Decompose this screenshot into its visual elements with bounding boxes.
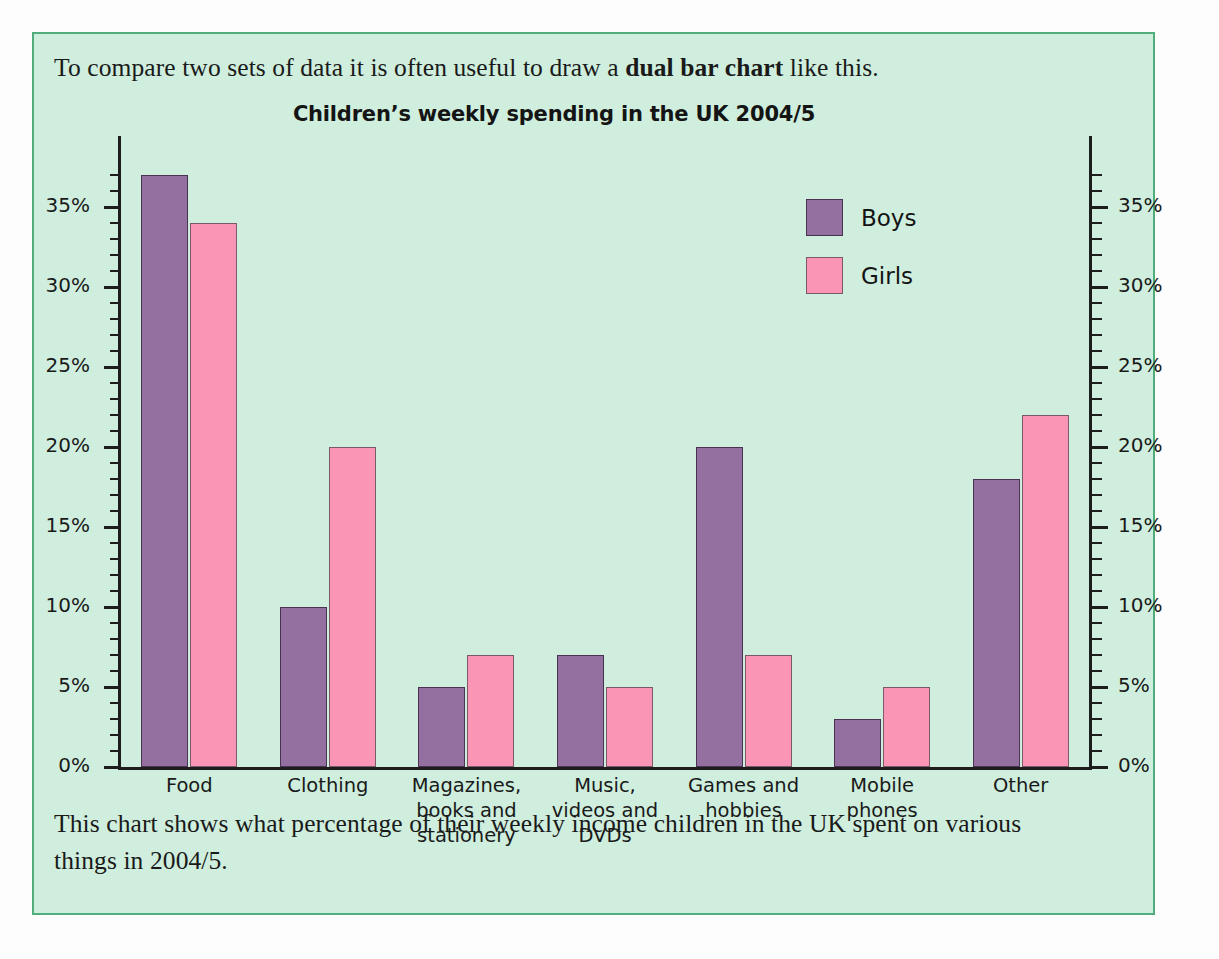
bar-girls-3: [606, 687, 653, 767]
minor-tick-left: [110, 270, 120, 272]
y-tick-label-left-35pct: 35%: [46, 193, 90, 217]
minor-tick-left: [110, 174, 120, 176]
minor-tick-left: [110, 398, 120, 400]
minor-tick-left: [110, 382, 120, 384]
minor-tick-right: [1092, 622, 1102, 624]
minor-tick-left: [110, 542, 120, 544]
y-tick-label-right-5pct: 5%: [1118, 673, 1150, 697]
bar-boys-2: [418, 687, 465, 767]
major-tick-right: [1092, 446, 1108, 449]
minor-tick-right: [1092, 638, 1102, 640]
minor-tick-left: [110, 238, 120, 240]
category-label-6: Other: [943, 774, 1098, 799]
minor-tick-right: [1092, 430, 1102, 432]
minor-tick-right: [1092, 190, 1102, 192]
minor-tick-left: [110, 478, 120, 480]
legend-item-girls: Girls: [806, 257, 1006, 294]
bar-girls-0: [190, 223, 237, 767]
y-tick-label-right-30pct: 30%: [1118, 273, 1162, 297]
intro-text-bold: dual bar chart: [625, 53, 783, 82]
major-tick-right: [1092, 606, 1108, 609]
minor-tick-right: [1092, 254, 1102, 256]
category-label-line: Games and: [666, 774, 821, 799]
minor-tick-right: [1092, 334, 1102, 336]
minor-tick-right: [1092, 414, 1102, 416]
major-tick-right: [1092, 286, 1108, 289]
bar-boys-0: [141, 175, 188, 767]
minor-tick-right: [1092, 238, 1102, 240]
minor-tick-right: [1092, 350, 1102, 352]
minor-tick-left: [110, 702, 120, 704]
intro-paragraph: To compare two sets of data it is often …: [54, 50, 1134, 87]
minor-tick-left: [110, 654, 120, 656]
bar-boys-5: [834, 719, 881, 767]
minor-tick-right: [1092, 718, 1102, 720]
category-label-line: Magazines,: [389, 774, 544, 799]
minor-tick-right: [1092, 174, 1102, 176]
major-tick-left: [104, 446, 120, 449]
minor-tick-right: [1092, 670, 1102, 672]
y-tick-label-right-35pct: 35%: [1118, 193, 1162, 217]
bar-girls-5: [883, 687, 930, 767]
legend-swatch-girls: [806, 257, 843, 294]
minor-tick-right: [1092, 398, 1102, 400]
legend-label-boys: Boys: [861, 205, 916, 231]
content-panel: To compare two sets of data it is often …: [32, 32, 1155, 915]
chart-legend: BoysGirls: [806, 199, 1006, 315]
legend-label-girls: Girls: [861, 263, 913, 289]
minor-tick-left: [110, 622, 120, 624]
category-label-1: Clothing: [251, 774, 406, 799]
major-tick-left: [104, 206, 120, 209]
major-tick-left: [104, 606, 120, 609]
y-tick-label-left-20pct: 20%: [46, 433, 90, 457]
minor-tick-right: [1092, 702, 1102, 704]
bar-boys-4: [696, 447, 743, 767]
bar-boys-1: [280, 607, 327, 767]
legend-item-boys: Boys: [806, 199, 1006, 236]
minor-tick-left: [110, 510, 120, 512]
minor-tick-left: [110, 558, 120, 560]
y-tick-label-right-20pct: 20%: [1118, 433, 1162, 457]
y-tick-label-right-25pct: 25%: [1118, 353, 1162, 377]
category-label-line: Mobile: [805, 774, 960, 799]
major-tick-right: [1092, 206, 1108, 209]
legend-swatch-boys: [806, 199, 843, 236]
intro-text-suffix: like this.: [783, 53, 878, 82]
minor-tick-right: [1092, 318, 1102, 320]
minor-tick-right: [1092, 494, 1102, 496]
page-root: To compare two sets of data it is often …: [0, 0, 1219, 959]
bar-girls-4: [745, 655, 792, 767]
minor-tick-left: [110, 590, 120, 592]
minor-tick-left: [110, 734, 120, 736]
bar-boys-6: [973, 479, 1020, 767]
minor-tick-right: [1092, 510, 1102, 512]
y-tick-label-right-10pct: 10%: [1118, 593, 1162, 617]
minor-tick-left: [110, 222, 120, 224]
major-tick-left: [104, 526, 120, 529]
outro-paragraph: This chart shows what percentage of thei…: [54, 806, 1074, 880]
bar-girls-2: [467, 655, 514, 767]
minor-tick-right: [1092, 382, 1102, 384]
y-tick-label-right-0pct: 0%: [1118, 753, 1150, 777]
minor-tick-left: [110, 318, 120, 320]
dual-bar-chart: Children’s weekly spending in the UK 200…: [34, 96, 1153, 796]
minor-tick-left: [110, 302, 120, 304]
minor-tick-left: [110, 254, 120, 256]
y-tick-label-left-0pct: 0%: [58, 753, 90, 777]
major-tick-left: [104, 366, 120, 369]
major-tick-right: [1092, 366, 1108, 369]
bar-boys-3: [557, 655, 604, 767]
minor-tick-left: [110, 750, 120, 752]
minor-tick-left: [110, 494, 120, 496]
minor-tick-right: [1092, 750, 1102, 752]
y-tick-label-left-15pct: 15%: [46, 513, 90, 537]
minor-tick-left: [110, 414, 120, 416]
minor-tick-left: [110, 190, 120, 192]
minor-tick-right: [1092, 734, 1102, 736]
y-tick-label-left-30pct: 30%: [46, 273, 90, 297]
minor-tick-right: [1092, 590, 1102, 592]
category-label-line: Other: [943, 774, 1098, 799]
minor-tick-right: [1092, 542, 1102, 544]
minor-tick-left: [110, 574, 120, 576]
minor-tick-right: [1092, 654, 1102, 656]
